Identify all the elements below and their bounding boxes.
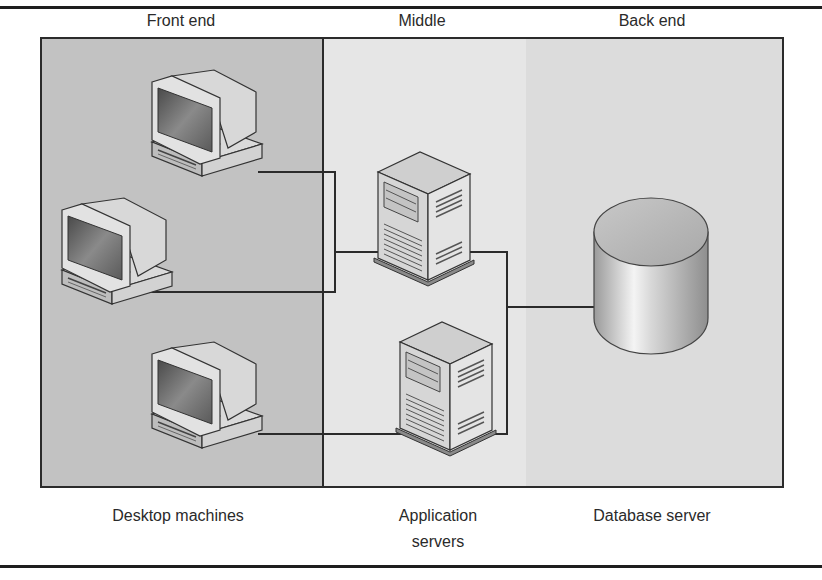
footer-desktop-machines: Desktop machines	[112, 503, 244, 529]
bottom-rule	[0, 565, 822, 568]
footer-application-line2: servers	[399, 529, 477, 555]
footer-database-server: Database server	[593, 503, 710, 529]
desktop-computer-icon	[62, 198, 172, 304]
tower-server-icon	[396, 322, 496, 456]
tower-server-icon	[374, 152, 474, 286]
diagram-canvas	[0, 0, 822, 580]
footer-application-line1: Application	[399, 503, 477, 529]
desktop-computer-icon	[152, 342, 262, 448]
database-cylinder-icon	[594, 198, 708, 354]
footer-application-servers: Application servers	[399, 503, 477, 555]
desktop-computer-icon	[152, 70, 262, 176]
